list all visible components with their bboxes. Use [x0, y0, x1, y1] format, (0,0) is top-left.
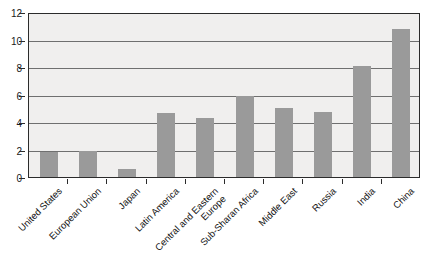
bar-chart: 024681012 United StatesEuropean UnionJap…	[0, 0, 437, 258]
x-axis-label: India	[356, 186, 378, 208]
x-axis-label: China	[392, 186, 417, 211]
x-axis-label: Japan	[117, 186, 143, 212]
x-axis-label: Middle East	[257, 186, 300, 229]
x-axis-labels: United StatesEuropean UnionJapanLatin Am…	[0, 0, 437, 258]
x-axis-label: Russia	[310, 186, 338, 214]
